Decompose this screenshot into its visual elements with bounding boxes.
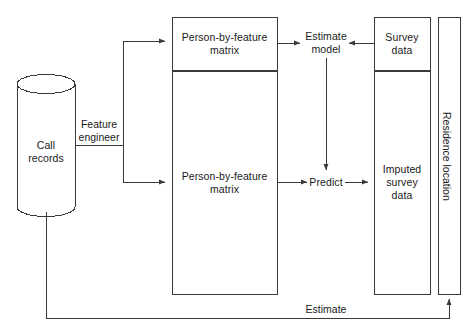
- feature-engineer-edge-label: Feature engineer: [73, 118, 125, 144]
- diagram-canvas: Call records Person-by-feature matrix Pe…: [0, 0, 472, 332]
- person-by-feature-train-label: Person-by-feature matrix: [172, 17, 277, 70]
- imputed-survey-data-label: Imputed survey data: [374, 71, 430, 294]
- call-records-label: Call records: [17, 139, 75, 165]
- residence-location-label: Residence location: [441, 112, 453, 201]
- estimate-return-edge-label: Estimate: [297, 303, 355, 316]
- records-to-matrix-bottom-edge: [123, 145, 165, 182]
- survey-data-label: Survey data: [374, 17, 430, 70]
- estimate-model-label: Estimate model: [297, 30, 355, 56]
- predict-label: Predict: [303, 176, 349, 189]
- person-by-feature-apply-label: Person-by-feature matrix: [172, 71, 277, 294]
- records-to-matrix-top-edge: [123, 41, 165, 145]
